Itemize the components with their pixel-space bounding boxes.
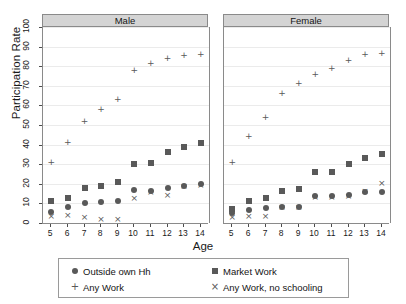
gridline [224,86,390,87]
data-point-ex: × [228,213,237,222]
x-axis-tick-mark [100,224,101,227]
x-axis-tick-label: 11 [324,228,338,238]
legend-item-label: Outside own Hh [83,266,151,277]
gridline [224,47,390,48]
data-point-square [279,188,285,194]
data-point-plus: + [47,158,56,167]
data-point-square [346,161,352,167]
x-axis-tick-label: 11 [143,228,157,238]
x-axis-tick-mark [314,224,315,227]
data-point-plus: + [278,89,287,98]
data-point-ex: × [294,203,303,212]
data-point-plus: + [97,105,106,114]
data-point-square [263,195,269,201]
data-point-plus: + [327,64,336,73]
chart-figure: Participation Rate 010203040506070809010… [0,0,406,304]
data-point-square [115,179,121,185]
data-point-square [131,161,137,167]
x-axis-tick-label: 7 [258,228,272,238]
y-axis-tick-label: 30 [21,152,31,174]
legend-item-ex[interactable]: ×Any Work, no schooling [207,279,323,295]
data-point-square [329,169,335,175]
x-axis-tick-label: 14 [374,228,388,238]
data-point-ex: × [377,179,386,188]
gridline [224,164,390,165]
legend-item-label: Any Work, no schooling [223,282,323,293]
legend-key-shape [72,268,78,274]
gridline [224,145,390,146]
x-axis-tick-label: 9 [291,228,305,238]
x-axis-tick-mark [150,224,151,227]
legend-item-circle[interactable]: Outside own Hh [67,263,151,279]
y-axis-tick-label: 10 [21,191,31,213]
y-axis-tick-label: 40 [21,133,31,155]
x-axis-title: Age [0,240,406,252]
legend-item-square[interactable]: Market Work [207,263,277,279]
y-axis-tick-label: 80 [21,54,31,76]
data-point-plus: + [80,117,89,126]
legend-key-glyph: × [211,282,219,292]
data-point-square [82,185,88,191]
y-axis-tick-label: 100 [21,15,31,37]
data-point-square [246,198,252,204]
x-axis-tick-mark [84,224,85,227]
data-point-ex: × [63,211,72,220]
x-axis-tick-mark [381,224,382,227]
panel-strip-female: Female [223,14,389,27]
x-axis-tick-label: 8 [274,228,288,238]
x-axis-tick-mark [117,224,118,227]
legend-item-label: Any Work [83,282,124,293]
gridline [224,27,390,28]
data-point-circle [131,187,137,193]
data-point-ex: × [180,182,189,191]
data-point-ex: × [244,212,253,221]
data-point-square [198,140,204,146]
data-point-ex: × [311,193,320,202]
gridline [43,66,209,67]
legend-item-plus[interactable]: +Any Work [67,279,124,295]
x-axis-tick-label: 13 [176,228,190,238]
data-point-ex: × [344,192,353,201]
data-point-square [296,186,302,192]
gridline [43,27,209,28]
legend-square-icon [207,264,223,278]
data-point-ex: × [163,191,172,200]
data-point-square [379,151,385,157]
panel-strip-male-label: Male [115,15,136,26]
x-axis-tick-label: 7 [77,228,91,238]
plot-panel-female: ++++++++++×××××××××× [223,27,391,223]
data-point-square [98,183,104,189]
x-axis-tick-mark [331,224,332,227]
data-point-plus: + [261,113,270,122]
gridline [224,105,390,106]
x-axis-tick-label: 6 [241,228,255,238]
legend-key-shape [212,268,218,274]
data-point-square [362,155,368,161]
data-point-plus: + [294,79,303,88]
data-point-plus: + [228,158,237,167]
x-axis-tick-mark [50,224,51,227]
data-point-square [148,160,154,166]
data-point-circle [98,199,104,205]
data-point-square [181,144,187,150]
data-point-ex: × [361,187,370,196]
data-point-plus: + [361,50,370,59]
y-axis-tick-label: 0 [21,211,31,233]
gridline [43,86,209,87]
x-axis-tick-label: 5 [224,228,238,238]
data-point-circle [82,200,88,206]
data-point-plus: + [244,132,253,141]
data-point-square [312,169,318,175]
x-axis-tick-label: 10 [307,228,321,238]
data-point-plus: + [344,56,353,65]
y-axis-tick-label: 60 [21,93,31,115]
panel-strip-male: Male [42,14,208,27]
y-axis-tick-label: 20 [21,172,31,194]
x-axis-tick-mark [265,224,266,227]
x-axis-tick-label: 12 [341,228,355,238]
chart-legend: Outside own HhMarket Work+Any Work×Any W… [58,258,349,298]
legend-circle-icon [67,264,83,278]
data-point-plus: + [63,138,72,147]
y-axis-tick-label: 70 [21,74,31,96]
data-point-plus: + [113,95,122,104]
